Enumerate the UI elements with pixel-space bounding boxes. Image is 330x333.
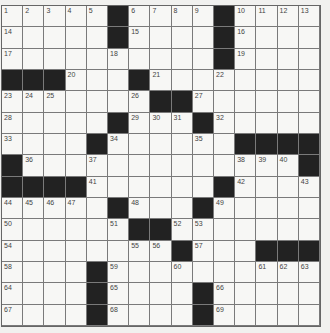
grid-cell[interactable] [172,155,193,176]
grid-cell[interactable] [150,198,171,219]
grid-cell[interactable] [256,177,277,198]
grid-cell[interactable] [256,219,277,240]
grid-cell[interactable] [150,27,171,48]
grid-cell[interactable]: 36 [23,155,44,176]
grid-cell[interactable] [299,113,320,134]
grid-cell[interactable]: 41 [87,177,108,198]
grid-cell[interactable]: 69 [214,305,235,326]
grid-cell[interactable] [235,241,256,262]
grid-cell[interactable]: 68 [108,305,129,326]
grid-cell[interactable] [66,91,87,112]
grid-cell[interactable] [66,134,87,155]
grid-cell[interactable] [256,198,277,219]
grid-cell[interactable]: 67 [2,305,23,326]
grid-cell[interactable]: 66 [214,283,235,304]
grid-cell[interactable]: 58 [2,262,23,283]
grid-cell[interactable] [256,49,277,70]
grid-cell[interactable]: 55 [129,241,150,262]
grid-cell[interactable] [172,70,193,91]
grid-cell[interactable] [193,49,214,70]
grid-cell[interactable] [150,262,171,283]
grid-cell[interactable]: 4 [66,6,87,27]
grid-cell[interactable] [23,305,44,326]
grid-cell[interactable]: 51 [108,219,129,240]
grid-cell[interactable]: 31 [172,113,193,134]
grid-cell[interactable] [108,241,129,262]
grid-cell[interactable] [87,219,108,240]
grid-cell[interactable]: 3 [44,6,65,27]
grid-cell[interactable]: 49 [214,198,235,219]
grid-cell[interactable]: 21 [150,70,171,91]
grid-cell[interactable] [129,49,150,70]
grid-cell[interactable] [44,283,65,304]
grid-cell[interactable] [108,91,129,112]
grid-cell[interactable] [23,27,44,48]
grid-cell[interactable]: 44 [2,198,23,219]
grid-cell[interactable] [44,113,65,134]
grid-cell[interactable]: 39 [256,155,277,176]
grid-cell[interactable] [235,198,256,219]
grid-cell[interactable] [214,262,235,283]
grid-cell[interactable] [172,283,193,304]
grid-cell[interactable]: 62 [278,262,299,283]
grid-cell[interactable]: 7 [150,6,171,27]
grid-cell[interactable] [214,219,235,240]
grid-cell[interactable] [150,49,171,70]
grid-cell[interactable]: 26 [129,91,150,112]
grid-cell[interactable] [44,155,65,176]
grid-cell[interactable]: 57 [193,241,214,262]
grid-cell[interactable] [129,262,150,283]
grid-cell[interactable]: 8 [172,6,193,27]
grid-cell[interactable]: 32 [214,113,235,134]
grid-cell[interactable]: 17 [2,49,23,70]
grid-cell[interactable]: 30 [150,113,171,134]
grid-cell[interactable]: 48 [129,198,150,219]
grid-cell[interactable] [150,283,171,304]
grid-cell[interactable] [299,70,320,91]
grid-cell[interactable] [278,305,299,326]
grid-cell[interactable]: 50 [2,219,23,240]
grid-cell[interactable]: 2 [23,6,44,27]
grid-cell[interactable] [235,283,256,304]
grid-cell[interactable] [150,305,171,326]
grid-cell[interactable]: 19 [235,49,256,70]
grid-cell[interactable]: 33 [2,134,23,155]
grid-cell[interactable] [278,27,299,48]
grid-cell[interactable] [44,262,65,283]
grid-cell[interactable] [256,305,277,326]
grid-cell[interactable] [87,91,108,112]
grid-cell[interactable]: 16 [235,27,256,48]
grid-cell[interactable] [235,91,256,112]
grid-cell[interactable] [66,262,87,283]
grid-cell[interactable] [299,91,320,112]
grid-cell[interactable] [23,219,44,240]
grid-cell[interactable]: 10 [235,6,256,27]
grid-cell[interactable]: 9 [193,6,214,27]
grid-cell[interactable]: 65 [108,283,129,304]
grid-cell[interactable] [108,177,129,198]
grid-cell[interactable]: 5 [87,6,108,27]
grid-cell[interactable] [256,283,277,304]
grid-cell[interactable] [150,155,171,176]
grid-cell[interactable] [278,198,299,219]
grid-cell[interactable] [87,49,108,70]
grid-cell[interactable] [193,27,214,48]
grid-cell[interactable] [256,27,277,48]
grid-cell[interactable] [66,49,87,70]
grid-cell[interactable] [108,70,129,91]
grid-cell[interactable] [23,283,44,304]
grid-cell[interactable] [87,27,108,48]
grid-cell[interactable] [235,113,256,134]
grid-cell[interactable]: 15 [129,27,150,48]
grid-cell[interactable] [214,91,235,112]
grid-cell[interactable] [66,305,87,326]
grid-cell[interactable] [299,283,320,304]
grid-cell[interactable]: 37 [87,155,108,176]
grid-cell[interactable] [44,134,65,155]
grid-cell[interactable] [278,49,299,70]
grid-cell[interactable]: 60 [172,262,193,283]
grid-cell[interactable] [214,241,235,262]
grid-cell[interactable] [235,305,256,326]
grid-cell[interactable]: 29 [129,113,150,134]
grid-cell[interactable] [87,113,108,134]
